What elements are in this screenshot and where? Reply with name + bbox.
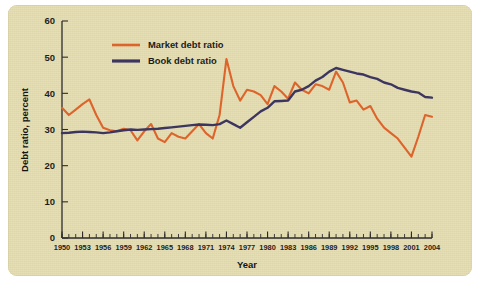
y-tick-label: 20 (44, 160, 55, 171)
x-tick-label: 1977 (239, 243, 255, 252)
x-tick-label: 1992 (342, 243, 358, 252)
y-tick-label: 40 (44, 88, 55, 99)
x-axis-tick-labels: 1950195319561959196219651968197119741977… (54, 243, 441, 252)
x-tick-label: 1989 (321, 243, 337, 252)
chart-legend: Market debt ratioBook debt ratio (112, 39, 224, 66)
x-tick-label: 1953 (74, 243, 90, 252)
x-tick-label: 2001 (403, 243, 419, 252)
y-axis-title: Debt ratio, percent (19, 87, 30, 172)
legend-label-market: Market debt ratio (148, 39, 224, 50)
x-tick-label: 1980 (259, 243, 275, 252)
chart-series-layer (62, 59, 432, 157)
x-tick-label: 1956 (95, 243, 111, 252)
x-tick-label: 1959 (115, 243, 131, 252)
y-tick-label: 50 (44, 52, 55, 63)
x-tick-label: 2004 (424, 243, 441, 252)
legend-label-book: Book debt ratio (148, 55, 217, 66)
x-tick-label: 1995 (362, 243, 378, 252)
x-tick-label: 1974 (218, 243, 235, 252)
x-tick-label: 1971 (198, 243, 214, 252)
x-tick-label: 1998 (383, 243, 399, 252)
series-line-market-debt-ratio (62, 59, 432, 157)
y-tick-label: 10 (44, 196, 55, 207)
x-tick-label: 1950 (54, 243, 70, 252)
y-tick-label: 0 (50, 232, 55, 243)
y-axis-tick-labels: 0102030405060 (44, 15, 55, 243)
debt-ratio-line-chart: 0102030405060 19501953195619591962196519… (8, 5, 472, 276)
series-line-book-debt-ratio (62, 68, 432, 133)
y-tick-label: 60 (44, 15, 55, 26)
y-axis-ticks (62, 21, 68, 238)
x-tick-label: 1986 (300, 243, 316, 252)
chart-figure: 0102030405060 19501953195619591962196519… (8, 5, 472, 276)
x-tick-label: 1962 (136, 243, 152, 252)
chart-axes (62, 21, 432, 238)
x-tick-label: 1968 (177, 243, 193, 252)
x-tick-label: 1965 (157, 243, 173, 252)
y-tick-label: 30 (44, 124, 55, 135)
x-axis-title: Year (237, 259, 257, 270)
x-axis-major-ticks (62, 232, 432, 239)
x-tick-label: 1983 (280, 243, 296, 252)
